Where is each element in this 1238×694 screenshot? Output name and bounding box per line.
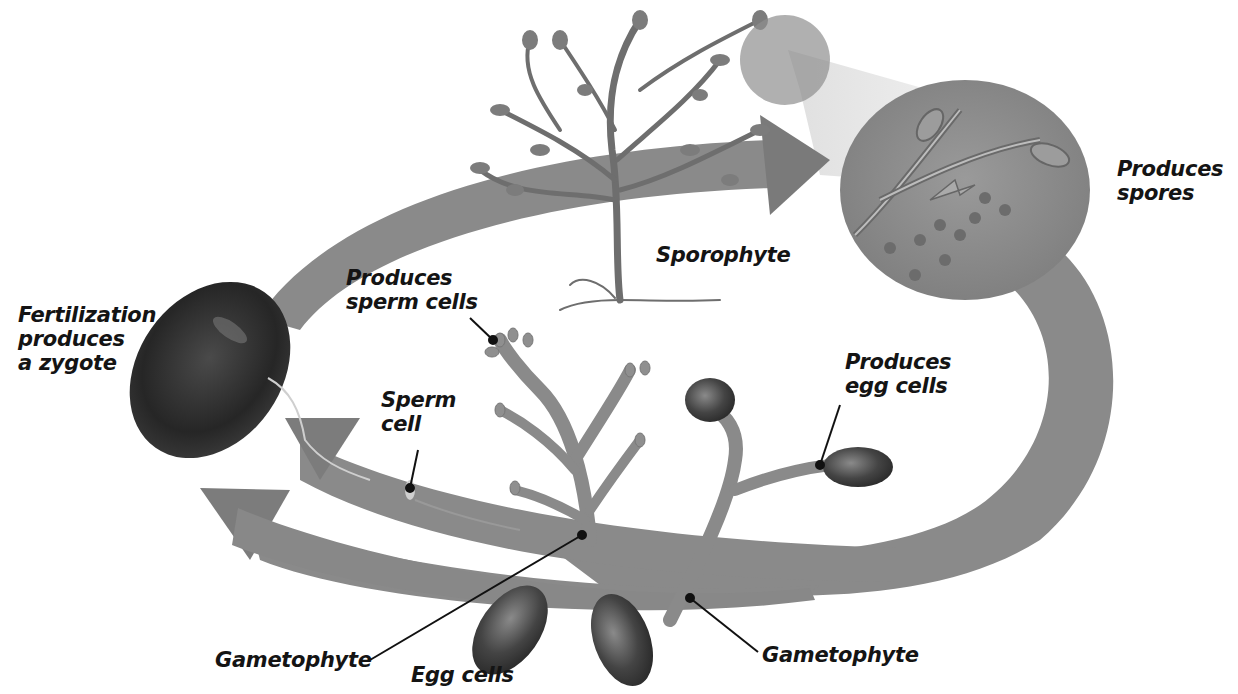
label-gametophyte-right: Gametophyte [762,643,919,667]
life-cycle-illustration [0,0,1238,694]
label-produces-sperm: Produces sperm cells [346,266,478,314]
label-produces-spores: Produces spores [1117,157,1223,205]
label-egg-cells: Egg cells [411,663,514,687]
label-line: cell [381,412,456,436]
label-line: Gametophyte [215,648,372,672]
label-gametophyte-left: Gametophyte [215,648,372,672]
label-line: sperm cells [346,290,478,314]
label-line: Produces [1117,157,1223,181]
label-line: Egg cells [411,663,514,687]
label-produces-egg: Produces egg cells [845,350,951,398]
label-sperm-cell: Sperm cell [381,388,456,436]
label-line: Produces [845,350,951,374]
label-line: a zygote [18,351,156,375]
label-line: Fertilization [18,303,156,327]
label-line: spores [1117,181,1223,205]
label-line: egg cells [845,374,951,398]
label-line: Produces [346,266,478,290]
label-line: produces [18,327,156,351]
label-line: Sperm [381,388,456,412]
label-sporophyte: Sporophyte [656,243,790,267]
label-fertilization: Fertilization produces a zygote [18,303,156,375]
label-line: Sporophyte [656,243,790,267]
spores-magnifier [840,80,1090,300]
label-line: Gametophyte [762,643,919,667]
magnified-region-source [740,15,830,105]
